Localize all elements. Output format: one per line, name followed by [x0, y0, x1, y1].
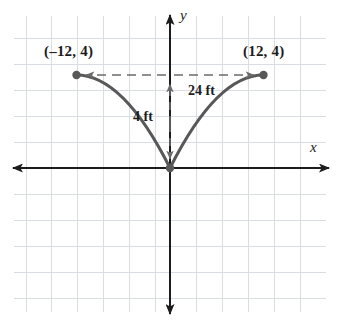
parabola-figure: (–12, 4) (12, 4) 24 ft 4 ft y x — [0, 0, 340, 326]
x-axis-label: x — [310, 140, 317, 155]
data-point-left-label: (–12, 4) — [44, 44, 93, 59]
y-axis-label: y — [180, 8, 187, 23]
vertex-point-marker — [166, 164, 174, 172]
data-point-right-label: (12, 4) — [243, 44, 284, 59]
height-dimension-label: 4 ft — [133, 110, 153, 124]
width-dimension-label: 24 ft — [188, 84, 215, 98]
data-point-left-marker — [72, 71, 80, 79]
data-point-right-marker — [259, 71, 267, 79]
